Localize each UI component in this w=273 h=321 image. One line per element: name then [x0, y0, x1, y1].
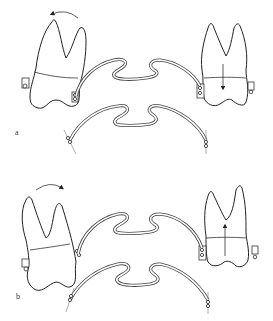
- right-molar: [205, 186, 249, 267]
- rotation-arrow-icon: [36, 184, 62, 190]
- right-molar: [201, 24, 247, 106]
- archwire-lower: [70, 264, 208, 300]
- panel-label-b: b: [16, 292, 20, 301]
- buccal-tube: [22, 259, 29, 267]
- archwire-upper: [76, 59, 200, 96]
- panel-b: [22, 184, 258, 314]
- buccal-tube: [252, 246, 258, 254]
- diagram-canvas: [0, 0, 273, 321]
- panel-label-a: a: [15, 128, 19, 137]
- archwire-lower: [70, 106, 206, 140]
- panel-a: [22, 12, 254, 154]
- archwire-upper: [78, 214, 202, 254]
- buccal-tube: [248, 82, 254, 90]
- left-molar: [22, 197, 76, 290]
- rotation-arrow-icon: [52, 12, 78, 18]
